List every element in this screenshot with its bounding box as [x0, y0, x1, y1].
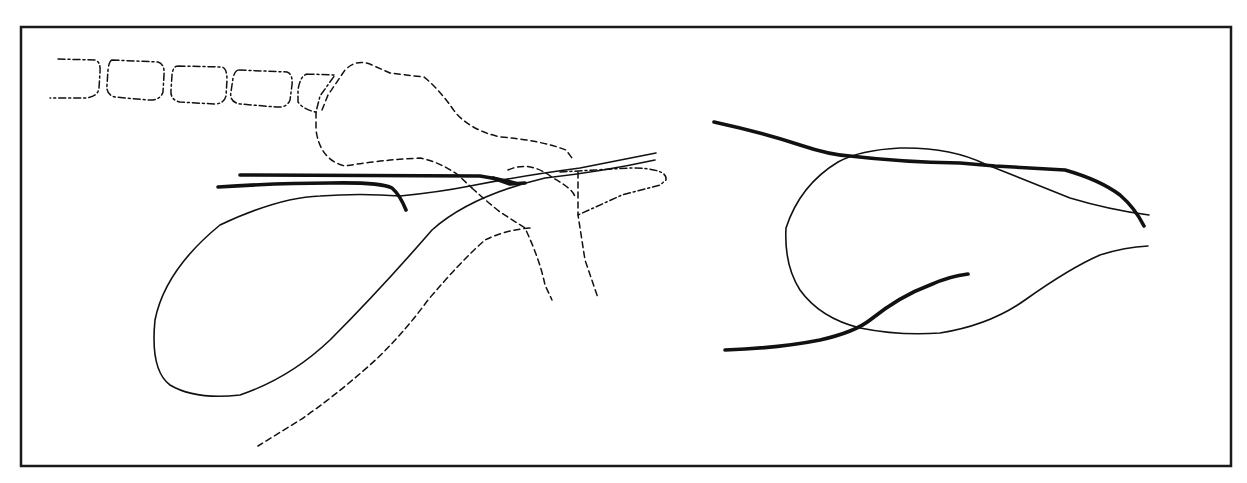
solid-loop — [154, 153, 656, 396]
bold-stroke-bottom — [725, 274, 968, 350]
diagram-canvas — [0, 0, 1247, 483]
dashed-lobe — [322, 62, 572, 158]
figure-frame — [21, 27, 1231, 466]
long-dashed-curve — [258, 228, 530, 446]
left-panel — [50, 59, 666, 446]
segmented-chain-dashed — [50, 59, 335, 112]
teardrop-outline — [786, 148, 1149, 334]
diagram-svg — [0, 0, 1247, 483]
right-panel — [714, 122, 1149, 350]
bold-stroke-top — [714, 122, 1144, 226]
